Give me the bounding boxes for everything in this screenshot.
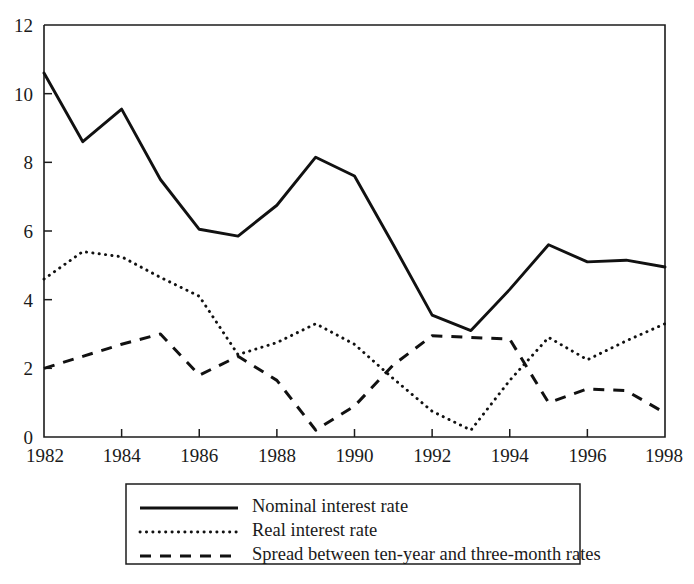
y-tick-label-8: 8 [24,152,34,173]
y-tick-label-4: 4 [24,290,34,311]
x-tick-label-1986: 1986 [180,445,218,466]
series-line-1 [44,252,665,431]
legend-label-0: Nominal interest rate [252,496,408,516]
x-tick-label-1998: 1998 [645,445,683,466]
interest-rate-chart-figure: 024681012 198219841986198819901992199419… [0,0,694,584]
data-series-group [44,73,665,430]
legend-label-1: Real interest rate [252,520,377,540]
y-tick-label-12: 12 [14,15,33,36]
x-tick-label-1982: 1982 [26,445,64,466]
x-tick-label-1984: 1984 [103,445,142,466]
x-tick-label-1994: 1994 [491,445,530,466]
x-tick-label-1990: 1990 [336,445,374,466]
x-axis-labels: 198219841986198819901992199419961998 [26,445,683,466]
x-tick-label-1992: 1992 [413,445,451,466]
axis-frame [44,25,665,437]
plot-frame [44,25,665,437]
y-axis-ticks [44,94,52,369]
x-tick-label-1988: 1988 [258,445,296,466]
x-axis-ticks [122,429,588,437]
series-line-2 [44,334,665,430]
y-tick-label-2: 2 [24,358,34,379]
chart-canvas: 024681012 198219841986198819901992199419… [0,0,694,584]
y-tick-label-6: 6 [24,221,34,242]
legend-label-2: Spread between ten-year and three-month … [252,544,601,564]
y-tick-label-10: 10 [14,84,33,105]
x-tick-label-1996: 1996 [568,445,606,466]
series-line-0 [44,73,665,331]
chart-legend: Nominal interest rateReal interest rateS… [126,484,601,564]
y-axis-labels: 024681012 [14,15,34,448]
